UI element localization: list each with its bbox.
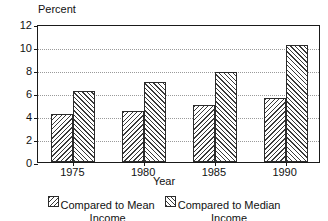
legend-item: Compared to MeanIncome — [48, 195, 155, 221]
y-axis-tick — [34, 72, 38, 73]
legend-swatch-icon — [165, 196, 176, 207]
y-axis-tick — [34, 95, 38, 96]
legend-item: Compared to MedianIncome — [165, 195, 281, 221]
bar — [144, 82, 166, 163]
legend-label: Compared to MedianIncome — [178, 195, 281, 221]
gridline — [38, 72, 319, 73]
y-axis-tick-label: 6 — [2, 89, 32, 100]
bar — [122, 111, 144, 162]
y-axis-tick-label: 8 — [2, 66, 32, 77]
y-axis-tick — [34, 141, 38, 142]
bar — [51, 114, 73, 162]
y-axis-title: Percent — [38, 3, 76, 15]
y-axis-tick-label: 12 — [2, 20, 32, 31]
y-axis-tick — [34, 26, 38, 27]
legend-label-line1: Compared to Mean — [61, 199, 155, 211]
x-axis-title: Year — [0, 175, 328, 187]
bar — [193, 105, 215, 163]
bar — [264, 98, 286, 162]
y-axis-tick-label: 2 — [2, 135, 32, 146]
legend-label-line2: Income — [61, 213, 155, 221]
legend-label-line2: Income — [178, 213, 281, 221]
bar — [215, 72, 237, 162]
y-axis-tick — [34, 164, 38, 165]
legend-label: Compared to MeanIncome — [61, 195, 155, 221]
bar-chart: Percent 024681012 1975198019851990 Year … — [0, 0, 328, 221]
y-axis-tick — [34, 49, 38, 50]
bar — [73, 91, 95, 162]
y-axis-tick-label: 0 — [2, 158, 32, 169]
gridline — [38, 49, 319, 50]
legend-label-line1: Compared to Median — [178, 199, 281, 211]
y-axis-tick — [34, 118, 38, 119]
plot-area — [37, 25, 320, 163]
legend-swatch-icon — [48, 196, 59, 207]
bar — [286, 45, 308, 162]
y-axis-tick-label: 4 — [2, 112, 32, 123]
chart-legend: Compared to MeanIncomeCompared to Median… — [0, 195, 328, 221]
y-axis-tick-label: 10 — [2, 43, 32, 54]
